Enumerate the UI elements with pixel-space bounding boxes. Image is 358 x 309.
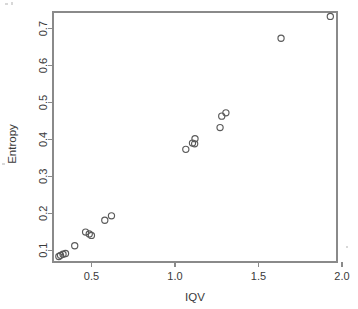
- y-tick-label: 0.7: [37, 21, 49, 36]
- x-tick-label: 1.0: [167, 270, 182, 282]
- y-tick-label: 0.3: [37, 169, 49, 184]
- x-tick-label: 0.5: [84, 270, 99, 282]
- y-tick-label: 0.2: [37, 206, 49, 221]
- y-tick-label: 0.5: [37, 95, 49, 110]
- scatter-plot-screenshot: 0.51.01.52.0 0.10.20.30.40.50.60.7 IQV E…: [0, 0, 358, 309]
- scatter-plot-figure: 0.51.01.52.0 0.10.20.30.40.50.60.7 IQV E…: [0, 0, 358, 309]
- y-axis-title: Entropy: [6, 124, 18, 164]
- x-tick-label: 2.0: [334, 270, 349, 282]
- x-axis-title: IQV: [185, 291, 205, 303]
- y-tick-label: 0.4: [37, 132, 49, 147]
- figure-background: [0, 0, 358, 309]
- y-tick-label: 0.1: [37, 243, 49, 258]
- x-tick-label: 1.5: [251, 270, 266, 282]
- y-tick-label: 0.6: [37, 58, 49, 73]
